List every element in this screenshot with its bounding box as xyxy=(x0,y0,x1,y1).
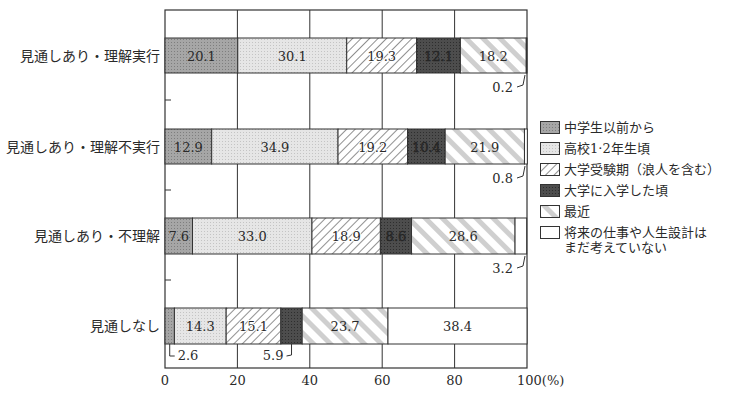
callout-label: 3.2 xyxy=(492,261,513,276)
x-tick-label: 0 xyxy=(161,373,169,388)
value-label: 14.3 xyxy=(186,319,215,334)
x-tick-label: 40 xyxy=(302,373,319,388)
value-label: 19.3 xyxy=(367,49,396,64)
callout-label: 5.9 xyxy=(263,348,284,363)
value-label: 12.1 xyxy=(424,49,453,64)
value-label: 18.9 xyxy=(332,229,361,244)
legend-item: 将来の仕事や人生設計は まだ考えていない xyxy=(540,225,737,246)
value-label: 28.6 xyxy=(449,229,478,244)
category-label: 見通しあり・理解不実行 xyxy=(6,139,160,155)
legend-swatch xyxy=(540,205,560,218)
legend-label: 最近 xyxy=(564,204,590,219)
legend-swatch xyxy=(540,184,560,197)
bar-segment xyxy=(165,308,174,344)
legend-item: 大学に入学した頃 xyxy=(540,183,737,204)
legend-label: 高校1·2年生頃 xyxy=(564,141,650,156)
legend-item: 高校1·2年生頃 xyxy=(540,141,737,162)
value-label: 8.6 xyxy=(386,229,407,244)
x-tick-label: 100(%) xyxy=(517,373,564,388)
value-label: 34.9 xyxy=(260,140,289,155)
value-label: 7.6 xyxy=(168,229,189,244)
legend-swatch xyxy=(540,226,560,239)
legend-item: 最近 xyxy=(540,204,737,225)
value-label: 18.2 xyxy=(479,49,508,64)
x-tick-label: 60 xyxy=(374,373,391,388)
value-label: 10.4 xyxy=(412,140,441,155)
value-label: 20.1 xyxy=(187,49,216,64)
legend-label: 大学に入学した頃 xyxy=(564,183,668,198)
legend-swatch xyxy=(540,142,560,155)
legend-swatch xyxy=(540,163,560,176)
value-label: 33.0 xyxy=(238,229,267,244)
legend: 中学生以前から高校1·2年生頃大学受験期（浪人を含む）大学に入学した頃最近将来の… xyxy=(540,120,737,246)
callout-label: 0.8 xyxy=(492,171,513,186)
bar-segment xyxy=(526,38,527,73)
category-label: 見通しあり・理解実行 xyxy=(20,48,160,64)
category-label: 見通しなし xyxy=(90,318,160,334)
value-label: 30.1 xyxy=(278,49,307,64)
legend-label: 大学受験期（浪人を含む） xyxy=(564,162,720,177)
bar-segment xyxy=(524,129,527,164)
value-label: 15.1 xyxy=(239,319,268,334)
value-label: 21.9 xyxy=(470,140,499,155)
bar-segment xyxy=(281,308,302,344)
value-label: 23.7 xyxy=(331,319,360,334)
value-label: 12.9 xyxy=(174,140,203,155)
legend-label: 将来の仕事や人生設計は まだ考えていない xyxy=(564,225,707,255)
value-label: 38.4 xyxy=(443,319,472,334)
legend-item: 大学受験期（浪人を含む） xyxy=(540,162,737,183)
value-label: 19.2 xyxy=(358,140,387,155)
x-tick-label: 80 xyxy=(446,373,463,388)
legend-label: 中学生以前から xyxy=(564,120,655,135)
bar-segment xyxy=(515,218,527,254)
x-tick-label: 20 xyxy=(229,373,246,388)
category-label: 見通しあり・不理解 xyxy=(34,228,160,244)
callout-label: 2.6 xyxy=(178,348,199,363)
legend-swatch xyxy=(540,121,560,134)
callout-label: 0.2 xyxy=(492,80,513,95)
category-labels: 見通しあり・理解実行見通しあり・理解不実行見通しあり・不理解見通しなし xyxy=(6,48,160,335)
legend-item: 中学生以前から xyxy=(540,120,737,141)
x-axis: 020406080100(%) xyxy=(161,373,564,388)
